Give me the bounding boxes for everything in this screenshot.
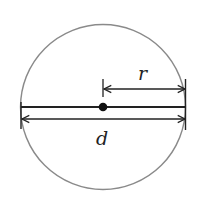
radius-label: r — [138, 62, 149, 84]
center-point — [99, 103, 108, 112]
diameter-label: d — [96, 127, 108, 149]
circle-diagram: r d — [0, 0, 203, 204]
